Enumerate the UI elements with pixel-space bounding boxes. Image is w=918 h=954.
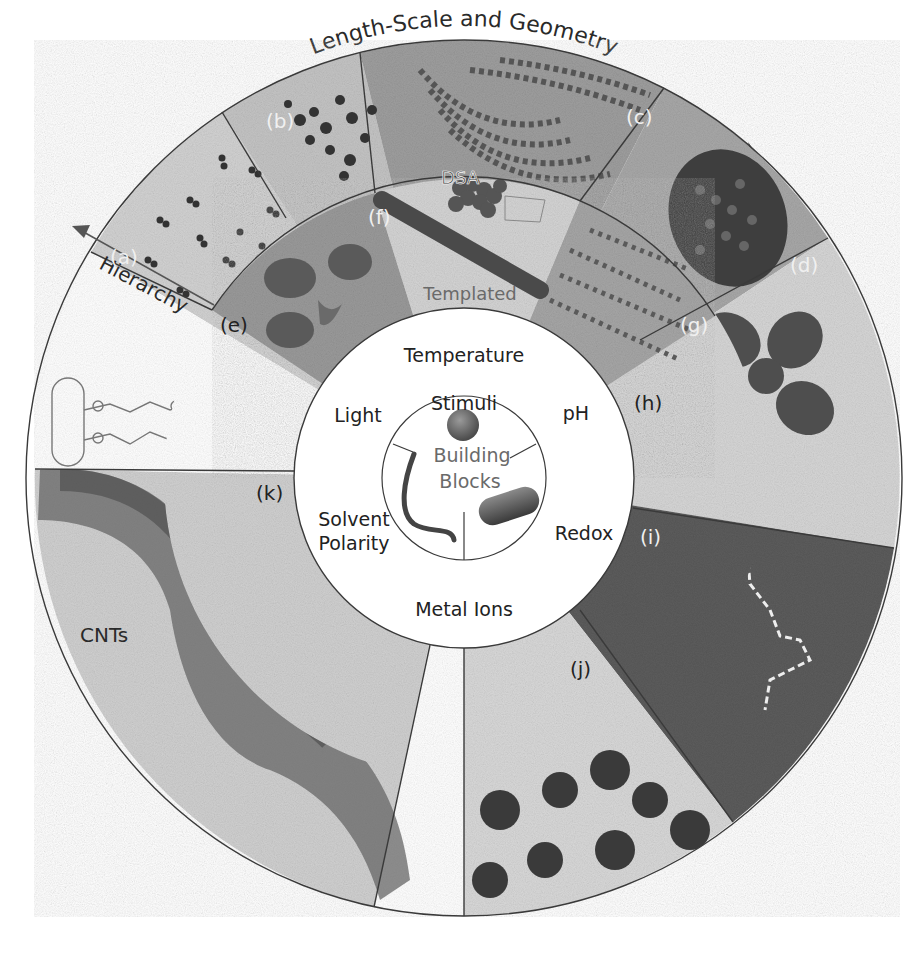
stimulus-solvent: Solvent <box>318 508 389 530</box>
stimuli-label: Stimuli <box>431 392 497 414</box>
assembly-schematic-figure: Length-Scale and Geometry <box>0 0 918 954</box>
panel-label-g: (g) <box>680 313 708 337</box>
stimulus-temperature: Temperature <box>403 344 524 366</box>
arrowhead-icon <box>72 225 90 238</box>
stimulus-metal-ions: Metal Ions <box>415 598 513 620</box>
stimulus-ph: pH <box>563 402 589 424</box>
panel-label-e: (e) <box>220 313 248 337</box>
panel-label-k: (k) <box>256 481 283 505</box>
panel-label-b: (b) <box>266 109 294 133</box>
stimulus-redox: Redox <box>555 522 613 544</box>
building-label: Building <box>433 444 510 466</box>
panel-label-i: (i) <box>640 525 661 549</box>
stimulus-polarity: Polarity <box>318 532 389 554</box>
cnts-label: CNTs <box>80 623 128 647</box>
dsa-label: DSA <box>441 167 480 188</box>
panel-label-f: (f) <box>368 205 391 229</box>
panel-label-j: (j) <box>570 657 591 681</box>
panel-label-h: (h) <box>634 391 662 415</box>
panel-label-a: (a) <box>110 245 138 269</box>
panel-label-d: (d) <box>790 253 818 277</box>
templated-label: Templated <box>422 283 517 304</box>
stimulus-light: Light <box>334 404 381 426</box>
panel-label-c: (c) <box>626 105 653 129</box>
blocks-label: Blocks <box>439 470 500 492</box>
